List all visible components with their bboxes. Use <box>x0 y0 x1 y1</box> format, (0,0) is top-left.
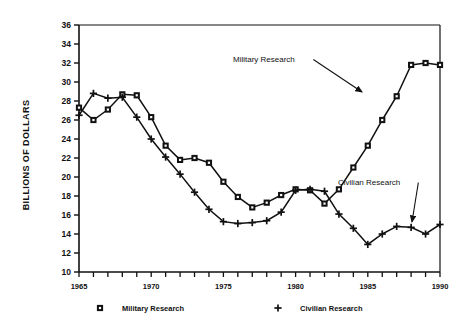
y-tick-label: 32 <box>62 58 72 68</box>
marker-inner <box>92 119 94 121</box>
marker-inner <box>251 206 253 208</box>
marker-inner <box>410 64 412 66</box>
marker-inner <box>222 181 224 183</box>
y-tick-label: 34 <box>62 39 72 49</box>
series-military <box>76 60 443 211</box>
series-civilian <box>75 90 443 248</box>
x-tick-label: 1990 <box>432 282 449 291</box>
marker-inner <box>280 194 282 196</box>
marker-inner <box>107 108 109 110</box>
marker-inner <box>396 95 398 97</box>
marker-inner <box>352 166 354 168</box>
series-line <box>79 93 440 244</box>
y-ticks: 1012141618202224262830323436 <box>62 20 79 277</box>
x-tick-label: 1970 <box>143 282 160 291</box>
y-tick-label: 10 <box>62 267 72 277</box>
marker-inner <box>237 196 239 198</box>
chart-annotation-arrow <box>313 60 362 93</box>
marker-inner <box>381 119 383 121</box>
marker-inner <box>338 188 340 190</box>
y-tick-label: 14 <box>62 229 72 239</box>
marker-inner <box>179 159 181 161</box>
y-tick-label: 20 <box>62 172 72 182</box>
legend-label: Civilian Research <box>300 304 363 313</box>
marker-inner <box>266 202 268 204</box>
chart-annotation-label: Civilian Research <box>338 178 400 187</box>
marker-inner <box>323 203 325 205</box>
y-tick-label: 28 <box>62 96 72 106</box>
marker-inner <box>78 107 80 109</box>
x-tick-label: 1965 <box>71 282 88 291</box>
marker-inner <box>150 116 152 118</box>
legend-label: Military Research <box>122 304 185 313</box>
x-ticks: 196519701975198019851990 <box>71 272 449 291</box>
x-tick-label: 1985 <box>359 282 376 291</box>
annotations: Military ResearchCivilian Research <box>233 55 418 222</box>
marker-inner <box>367 145 369 147</box>
y-tick-label: 26 <box>62 115 72 125</box>
y-tick-label: 16 <box>62 210 72 220</box>
y-tick-label: 36 <box>62 20 72 30</box>
y-tick-label: 30 <box>62 77 72 87</box>
chart-legend: Military ResearchCivilian Research <box>97 304 363 313</box>
marker-inner <box>193 157 195 159</box>
chart-figure: BILLIONS OF DOLLARS 10121416182022242628… <box>0 0 469 333</box>
marker-inner <box>165 145 167 147</box>
marker-inner <box>208 162 210 164</box>
x-tick-label: 1975 <box>215 282 232 291</box>
marker-inner <box>439 64 441 66</box>
y-tick-label: 18 <box>62 191 72 201</box>
marker-inner <box>424 62 426 64</box>
marker-inner <box>99 307 101 309</box>
line-chart-plot: 1012141618202224262830323436196519701975… <box>0 0 469 333</box>
y-tick-label: 12 <box>62 248 72 258</box>
y-tick-label: 22 <box>62 153 72 163</box>
chart-annotation-arrow <box>412 183 418 223</box>
y-tick-label: 24 <box>62 134 72 144</box>
marker-inner <box>136 94 138 96</box>
x-tick-label: 1980 <box>287 282 304 291</box>
chart-annotation-label: Military Research <box>233 55 295 64</box>
